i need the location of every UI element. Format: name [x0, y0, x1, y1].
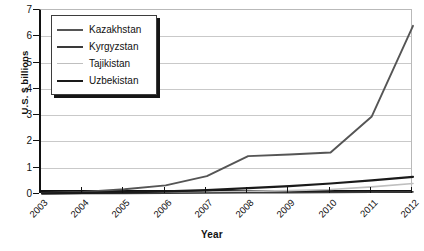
x-axis-tick-label: 2004: [63, 197, 91, 225]
x-axis-tick-label: 2006: [146, 197, 174, 225]
x-axis-tick-mark: [205, 187, 206, 193]
x-axis-tick-label: 2003: [22, 197, 50, 225]
legend-item-tajikistan[interactable]: Tajikistan: [57, 55, 152, 72]
y-axis-tick-label: 5: [0, 56, 32, 67]
x-axis-tick-label: 2010: [311, 197, 339, 225]
x-axis-tick-mark: [122, 187, 123, 193]
x-axis-tick-mark: [164, 187, 165, 193]
y-axis-tick-label: 2: [0, 135, 32, 146]
x-axis-tick-label: 2005: [105, 197, 133, 225]
x-axis-tick-label: 2011: [352, 197, 380, 225]
x-axis-tick-mark: [81, 187, 82, 193]
legend-item-kyrgyzstan[interactable]: Kyrgyzstan: [57, 38, 152, 55]
y-axis-tick-label: 6: [0, 30, 32, 41]
legend-item-label: Kazakhstan: [89, 24, 141, 35]
x-axis-tick-mark: [246, 187, 247, 193]
legend-swatch-icon: [57, 63, 83, 64]
x-axis-tick-mark: [40, 187, 41, 193]
y-axis-tick-label: 1: [0, 161, 32, 172]
x-axis-tick-mark: [370, 187, 371, 193]
legend-item-label: Kyrgyzstan: [89, 41, 138, 52]
legend-item-label: Tajikistan: [89, 58, 130, 69]
x-axis-tick-label: 2008: [228, 197, 256, 225]
legend-swatch-icon: [57, 80, 83, 82]
legend-swatch-icon: [57, 46, 83, 48]
x-axis-tick-mark: [411, 187, 412, 193]
y-axis-tick-label: 3: [0, 109, 32, 120]
x-axis-tick-label: 2007: [187, 197, 215, 225]
y-axis-tick-label: 4: [0, 82, 32, 93]
x-axis-tick-mark: [287, 187, 288, 193]
x-axis-tick-mark: [329, 187, 330, 193]
legend-item-kazakhstan[interactable]: Kazakhstan: [57, 21, 152, 38]
x-axis-title: Year: [0, 229, 424, 240]
y-axis-tick-label: 0: [0, 188, 32, 199]
legend-item-uzbekistan[interactable]: Uzbekistan: [57, 72, 152, 89]
y-axis-tick-label: 7: [0, 4, 32, 15]
chart-legend: KazakhstanKyrgyzstanTajikistanUzbekistan: [51, 15, 157, 95]
x-axis-tick-label: 2012: [393, 197, 421, 225]
x-axis-tick-label: 2009: [270, 197, 298, 225]
y-axis-tick-mark: [33, 193, 39, 194]
legend-item-label: Uzbekistan: [89, 75, 138, 86]
line-chart: U.S. $ billions 01234567 200320042005200…: [0, 0, 424, 251]
legend-swatch-icon: [57, 29, 83, 31]
